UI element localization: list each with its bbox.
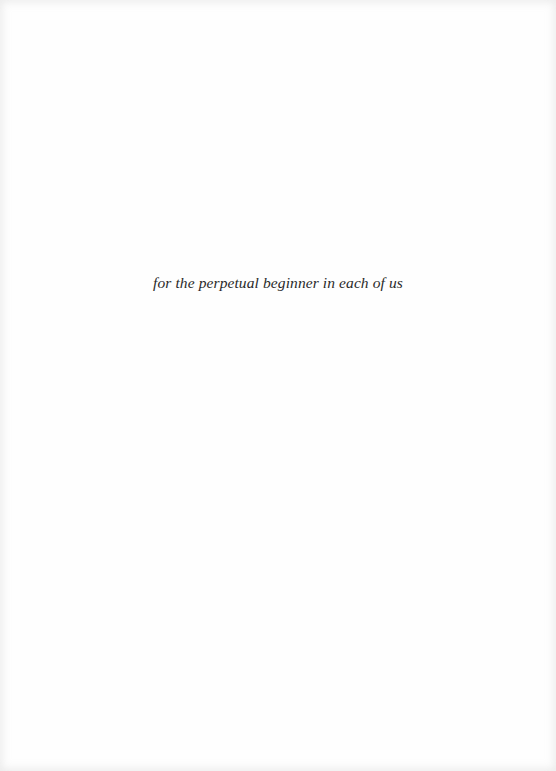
- dedication-text: for the perpetual beginner in each of us: [0, 273, 556, 293]
- book-page: for the perpetual beginner in each of us: [0, 0, 556, 771]
